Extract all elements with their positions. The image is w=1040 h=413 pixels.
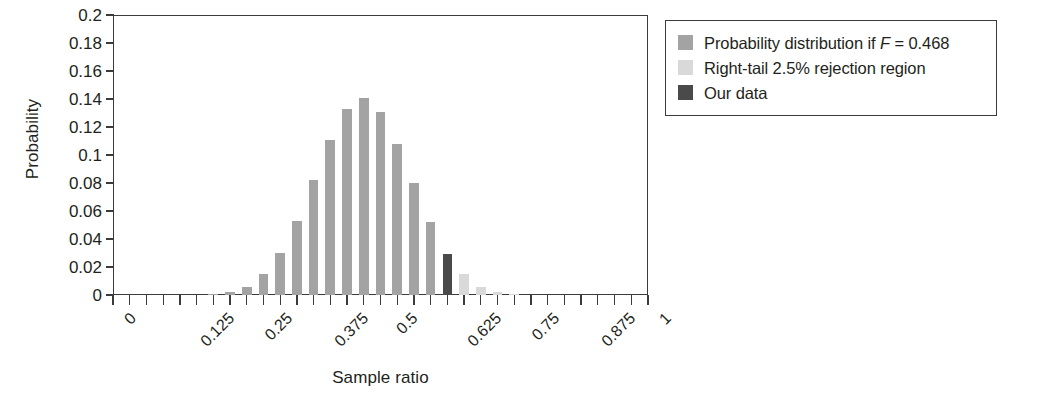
x-axis-tick	[246, 295, 247, 305]
x-axis-tick	[313, 295, 314, 305]
x-axis-tick-marks	[113, 295, 648, 306]
x-axis-tick	[196, 295, 197, 305]
bar-rejection	[459, 274, 469, 295]
y-axis-tick-label: 0.02	[40, 259, 102, 276]
x-axis-tick-label: 0.625	[465, 310, 505, 350]
x-axis-tick-label: 0	[122, 310, 140, 328]
chart-legend: Probability distribution if F = 0.468Rig…	[665, 20, 997, 116]
x-axis-tick	[397, 295, 398, 305]
x-axis-tick	[614, 295, 615, 305]
bar-dist	[292, 221, 302, 295]
x-axis-tick	[280, 295, 281, 305]
y-axis-tick-label: 0.16	[40, 63, 102, 80]
bar-dist	[376, 112, 386, 295]
legend-item[interactable]: Our data	[678, 80, 986, 105]
bar-dist	[259, 274, 269, 295]
x-axis-tick	[463, 295, 464, 305]
bar-dist	[359, 98, 369, 295]
bars-container	[113, 15, 648, 295]
y-axis-tick-label: 0.1	[40, 147, 102, 164]
y-axis-tick-label: 0.06	[40, 203, 102, 220]
x-axis-tick	[497, 295, 498, 305]
x-axis-tick	[363, 295, 364, 305]
x-axis-tick	[631, 295, 632, 305]
y-axis-tick-label: 0.04	[40, 231, 102, 248]
y-axis-tick-label: 0.18	[40, 35, 102, 52]
x-axis-tick-label: 0.875	[599, 310, 639, 350]
bar-ourdata	[443, 254, 453, 295]
bar-dist	[392, 144, 402, 295]
x-axis-tick	[547, 295, 548, 305]
x-axis-tick	[129, 295, 130, 305]
x-axis-tick-label: 0.75	[529, 310, 562, 343]
y-axis-tick-label: 0.12	[40, 119, 102, 136]
x-axis-tick	[112, 295, 113, 305]
bar-dist	[409, 183, 419, 295]
x-axis-tick	[296, 295, 297, 305]
x-axis-tick	[447, 295, 448, 305]
x-axis-tick	[413, 295, 414, 305]
y-axis-tick-label: 0	[40, 287, 102, 304]
x-axis-tick	[564, 295, 565, 305]
legend-swatch-icon	[678, 35, 693, 50]
legend-label: Our data	[704, 84, 767, 102]
y-axis-tick-label: 0.14	[40, 91, 102, 108]
x-axis-tick-labels: 00.1250.250.3750.50.6250.750.8751	[0, 306, 700, 366]
x-axis-tick-label: 0.5	[393, 310, 420, 337]
bar-dist	[309, 180, 319, 295]
x-axis-tick	[163, 295, 164, 305]
x-axis-tick	[430, 295, 431, 305]
x-axis-tick	[530, 295, 531, 305]
legend-item[interactable]: Right-tail 2.5% rejection region	[678, 55, 986, 80]
x-axis-tick	[647, 295, 648, 305]
x-axis-tick	[480, 295, 481, 305]
bar-dist	[275, 253, 285, 295]
x-axis-tick	[514, 295, 515, 305]
legend-item[interactable]: Probability distribution if F = 0.468	[678, 30, 986, 55]
x-axis-tick-label: 0.25	[262, 310, 295, 343]
x-axis-tick	[580, 295, 581, 305]
bar-rejection	[476, 287, 486, 295]
bar-dist	[325, 140, 335, 295]
x-axis-title: Sample ratio	[113, 368, 648, 388]
x-axis-tick	[330, 295, 331, 305]
x-axis-tick	[179, 295, 180, 305]
y-axis-tick-label: 0.08	[40, 175, 102, 192]
bar-dist	[426, 222, 436, 295]
x-axis-tick	[380, 295, 381, 305]
bar-dist	[342, 109, 352, 295]
x-axis-tick	[146, 295, 147, 305]
x-axis-tick-label: 1	[657, 310, 675, 328]
x-axis-tick-label: 0.125	[198, 310, 238, 350]
x-axis-tick	[346, 295, 347, 305]
legend-swatch-icon	[678, 60, 693, 75]
legend-swatch-icon	[678, 85, 693, 100]
x-axis-tick	[263, 295, 264, 305]
x-axis-tick	[597, 295, 598, 305]
y-axis-tick-labels: 0.20.180.160.140.120.10.080.060.040.020	[40, 8, 102, 303]
x-axis-tick-label: 0.375	[331, 310, 371, 350]
probability-distribution-chart: Probability 0.20.180.160.140.120.10.080.…	[0, 0, 1040, 413]
x-axis-tick	[213, 295, 214, 305]
y-axis-tick-label: 0.2	[40, 7, 102, 24]
x-axis-tick	[229, 295, 230, 305]
legend-label: Right-tail 2.5% rejection region	[704, 59, 926, 77]
bar-dist	[242, 287, 252, 295]
legend-label: Probability distribution if F = 0.468	[704, 34, 949, 52]
